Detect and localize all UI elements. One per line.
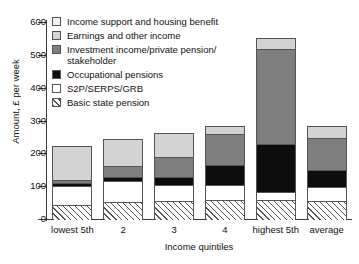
bar-segment-earnings_and_other_income[interactable] xyxy=(155,134,193,158)
bar-segment-s2p_serps_grb[interactable] xyxy=(104,181,142,202)
bar-segment-basic_state_pension[interactable] xyxy=(206,200,244,220)
swatch-hatched-icon xyxy=(52,98,61,107)
legend-item-basic_state_pension[interactable]: Basic state pension xyxy=(52,97,262,108)
y-axis-tick-label: 100 xyxy=(12,181,46,191)
chart-legend: Income support and housing benefitEarnin… xyxy=(52,16,262,111)
bar-segment-s2p_serps_grb[interactable] xyxy=(53,186,91,205)
y-axis-tick-label-wrap: 200 xyxy=(0,148,46,158)
bar-segment-earnings_and_other_income[interactable] xyxy=(257,39,295,49)
y-axis-tick-label-wrap: 400 xyxy=(0,83,46,93)
legend-item-income_support_housing_benefit[interactable]: Income support and housing benefit xyxy=(52,16,262,27)
legend-label: Income support and housing benefit xyxy=(67,16,218,27)
x-axis-line xyxy=(46,219,352,220)
bar-average[interactable] xyxy=(307,126,347,219)
bar-segment-s2p_serps_grb[interactable] xyxy=(155,185,193,201)
bar-segment-s2p_serps_grb[interactable] xyxy=(257,192,295,200)
y-axis-tick-label-wrap: 300 xyxy=(0,116,46,126)
legend-label: Occupational pensions xyxy=(67,69,163,80)
swatch-white-icon xyxy=(52,84,61,93)
bar-segment-basic_state_pension[interactable] xyxy=(53,205,91,220)
legend-label: Basic state pension xyxy=(67,97,149,108)
x-axis-title: Income quintiles xyxy=(46,241,352,252)
legend-label: Earnings and other income xyxy=(67,30,181,41)
y-axis-tick-label-wrap: 0 xyxy=(0,214,46,224)
bar-segment-s2p_serps_grb[interactable] xyxy=(308,187,346,202)
bar-segment-s2p_serps_grb[interactable] xyxy=(206,185,244,200)
bar-segment-investment_private_pension_stakeholder[interactable] xyxy=(257,49,295,144)
bar-segment-occupational_pensions[interactable] xyxy=(257,144,295,192)
y-axis-tick-label-wrap: 500 xyxy=(0,50,46,60)
bar-segment-investment_private_pension_stakeholder[interactable] xyxy=(104,166,142,177)
swatch-dark-gray-icon xyxy=(52,45,61,54)
bar-lowest-5th[interactable] xyxy=(52,146,92,219)
bar-segment-earnings_and_other_income[interactable] xyxy=(308,127,346,138)
x-axis-label-average: average xyxy=(282,224,359,235)
swatch-very-light-gray-icon xyxy=(52,17,61,26)
swatch-light-gray-icon xyxy=(52,31,61,40)
bar-segment-occupational_pensions[interactable] xyxy=(206,165,244,185)
bar-4[interactable] xyxy=(205,126,245,219)
bar-2[interactable] xyxy=(103,139,143,219)
bar-3[interactable] xyxy=(154,133,194,219)
swatch-black-icon xyxy=(52,70,61,79)
bar-segment-basic_state_pension[interactable] xyxy=(104,202,142,220)
bar-segment-earnings_and_other_income[interactable] xyxy=(53,147,91,180)
y-axis-tick-label-wrap: 600 xyxy=(0,17,46,27)
y-axis-tick-label: 600 xyxy=(12,17,46,27)
stacked-bar-chart: 0100200300400500600 Amount, £ per week l… xyxy=(0,0,359,264)
bar-segment-investment_private_pension_stakeholder[interactable] xyxy=(308,138,346,170)
legend-item-investment_private_pension_stakeholder[interactable]: Investment income/private pension/ stake… xyxy=(52,44,262,66)
bar-segment-basic_state_pension[interactable] xyxy=(155,201,193,220)
legend-label: Investment income/private pension/ stake… xyxy=(67,44,216,66)
bar-segment-occupational_pensions[interactable] xyxy=(155,177,193,185)
y-axis-title: Amount, £ per week xyxy=(10,39,21,165)
legend-label: S2P/SERPS/GRB xyxy=(67,83,143,94)
bar-segment-basic_state_pension[interactable] xyxy=(308,201,346,220)
legend-item-s2p_serps_grb[interactable]: S2P/SERPS/GRB xyxy=(52,83,262,94)
y-axis-tick-label: 0 xyxy=(12,214,46,224)
bar-segment-earnings_and_other_income[interactable] xyxy=(104,140,142,166)
bar-segment-investment_private_pension_stakeholder[interactable] xyxy=(155,157,193,177)
bar-segment-investment_private_pension_stakeholder[interactable] xyxy=(206,134,244,165)
legend-item-occupational_pensions[interactable]: Occupational pensions xyxy=(52,69,262,80)
bar-segment-basic_state_pension[interactable] xyxy=(257,200,295,220)
y-axis-tick-label-wrap: 100 xyxy=(0,181,46,191)
legend-item-earnings_and_other_income[interactable]: Earnings and other income xyxy=(52,30,262,41)
bar-segment-occupational_pensions[interactable] xyxy=(308,170,346,186)
